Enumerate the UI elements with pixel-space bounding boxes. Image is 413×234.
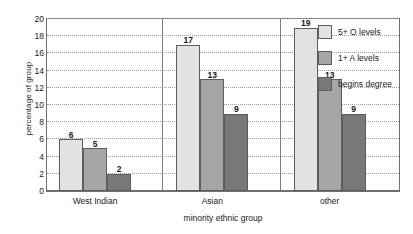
bar: 9	[342, 114, 366, 191]
y-tick-label: 2	[39, 169, 44, 179]
y-tick-label: 18	[35, 31, 44, 41]
legend-label: 5+ O levels	[338, 27, 381, 37]
legend-label: begins degree	[338, 79, 392, 89]
bar: 13	[200, 79, 224, 191]
bar-chart: percentage of group 02468101214161820652…	[0, 0, 413, 234]
category-separator	[280, 19, 281, 191]
bar: 9	[224, 114, 248, 191]
y-tick-label: 4	[39, 152, 44, 162]
legend-swatch	[318, 51, 332, 65]
x-category-label: Asian	[202, 196, 223, 206]
bar: 5	[83, 148, 107, 191]
y-tick-label: 20	[35, 14, 44, 24]
bar-value-label: 17	[184, 36, 193, 45]
bar: 6	[59, 139, 83, 191]
category-separator	[162, 19, 163, 191]
x-category-label: other	[320, 196, 339, 206]
y-tick-label: 8	[39, 117, 44, 127]
y-axis-title: percentage of group	[24, 19, 33, 179]
bar-value-label: 9	[351, 105, 356, 114]
bar: 17	[176, 45, 200, 191]
bar-value-label: 9	[234, 105, 239, 114]
legend-swatch	[318, 25, 332, 39]
legend-item: begins degree	[318, 76, 410, 92]
bar: 2	[107, 174, 131, 191]
legend-label: 1+ A levels	[338, 53, 379, 63]
bar-value-label: 2	[117, 165, 122, 174]
bar-value-label: 19	[301, 19, 310, 28]
chart-legend: 5+ O levels1+ A levelsbegins degree	[318, 24, 410, 102]
y-tick-label: 0	[39, 186, 44, 196]
x-axis-title: minority ethnic group	[46, 213, 400, 223]
y-tick-label: 6	[39, 134, 44, 144]
y-tick-label: 10	[35, 100, 44, 110]
legend-item: 1+ A levels	[318, 50, 410, 66]
gridline: 20	[47, 18, 399, 19]
y-tick-label: 12	[35, 83, 44, 93]
y-tick-label: 16	[35, 48, 44, 58]
legend-swatch	[318, 77, 332, 91]
bar-value-label: 5	[93, 140, 98, 149]
y-tick-label: 14	[35, 66, 44, 76]
legend-item: 5+ O levels	[318, 24, 410, 40]
bar-value-label: 6	[69, 131, 74, 140]
bar-value-label: 13	[208, 71, 217, 80]
bar: 19	[294, 28, 318, 191]
x-category-label: West Indian	[73, 196, 118, 206]
